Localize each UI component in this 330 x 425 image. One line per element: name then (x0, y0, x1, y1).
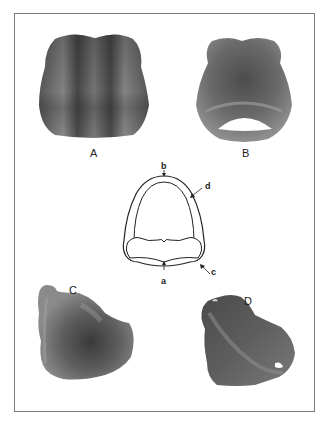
schematic-inner-outline (134, 182, 194, 242)
schematic-body-outline (126, 238, 201, 263)
specimen-photo-a (33, 31, 155, 139)
schematic-label-d: d (205, 182, 211, 191)
panel-label-a: A (90, 148, 97, 159)
schematic-label-c: c (211, 268, 216, 277)
panel-label-d: D (244, 296, 252, 307)
specimen-photo-d (197, 293, 299, 393)
specimen-photo-b (192, 33, 296, 143)
schematic-label-b: b (161, 162, 167, 171)
panel-label-b: B (242, 148, 249, 159)
schematic-diagram (118, 170, 218, 280)
panel-label-c: C (69, 285, 77, 296)
schematic-label-a: a (161, 277, 166, 286)
specimen-photo-c (33, 283, 137, 385)
